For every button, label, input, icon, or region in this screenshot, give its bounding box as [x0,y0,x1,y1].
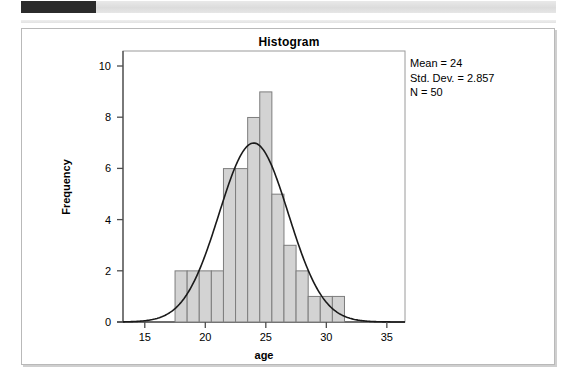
histogram-bar [187,271,199,322]
x-axis-ticks [145,322,387,328]
y-tick-8: 8 [105,111,111,123]
x-tick-label-30: 30 [320,331,332,343]
stats-annotation: Mean = 24 Std. Dev. = 2.857 N = 50 [410,56,495,100]
y-tick-0: 0 [105,316,111,328]
top-band-light-segment [96,1,556,13]
top-band-dark-segment [21,1,96,13]
x-tick-label-35: 35 [381,331,393,343]
histogram-bar [248,117,260,322]
y-tick-2: 2 [105,265,111,277]
histogram-bar [260,92,272,322]
y-tick-10: 10 [99,60,111,72]
histogram-bar [308,296,320,322]
y-axis-tick-labels: 0 2 4 6 8 10 [99,60,111,328]
stat-mean: Mean = 24 [410,56,495,71]
x-tick-label-25: 25 [260,331,272,343]
stat-stddev: Std. Dev. = 2.857 [410,71,495,86]
top-horizontal-rule [21,20,556,23]
x-axis-title: age [255,349,274,361]
decorative-top-band [0,0,578,14]
histogram-bar [211,271,223,322]
histogram-bar [199,271,211,322]
histogram-bar [284,245,296,322]
histogram-figure: Histogram 0 2 4 6 8 [21,28,555,365]
histogram-bar [296,271,308,322]
histogram-bar [272,194,284,322]
x-tick-label-20: 20 [199,331,211,343]
x-tick-label-15: 15 [139,331,151,343]
histogram-bar [223,169,235,322]
y-axis-ticks [117,66,123,322]
histogram-bar [236,169,248,322]
y-axis-title: Frequency [60,158,72,215]
x-axis-tick-labels: 1520253035 [139,331,393,343]
stat-n: N = 50 [410,85,495,100]
y-tick-6: 6 [105,162,111,174]
y-tick-4: 4 [105,214,111,226]
histogram-bar [320,296,332,322]
